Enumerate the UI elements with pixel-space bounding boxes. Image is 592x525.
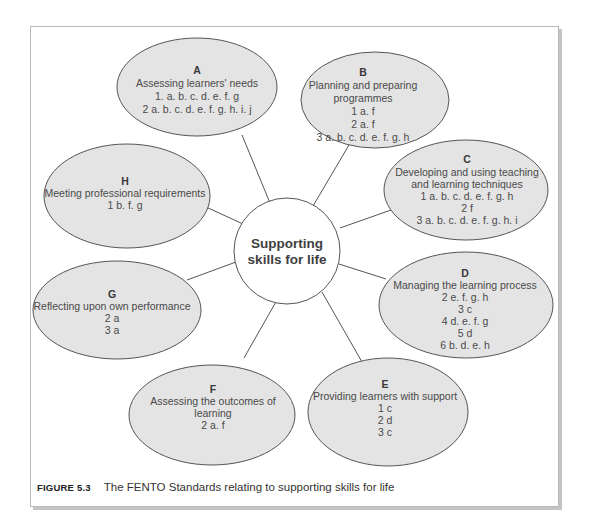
node-line: 3 a. b. c. d. e. f. g. h. i <box>417 214 518 226</box>
connector-d <box>339 264 386 279</box>
node-line: 1 c <box>378 402 392 414</box>
node-line: 2 a. f <box>201 419 224 431</box>
node-letter: B <box>359 66 367 78</box>
center-title-line-1: Supporting <box>251 236 323 251</box>
node-line: 5 d <box>458 327 473 339</box>
node-letter: C <box>463 153 471 165</box>
node-title: Meeting professional requirements <box>44 187 205 199</box>
connector-g <box>187 262 236 280</box>
connector-a <box>242 135 270 203</box>
node-line: 3 a <box>105 324 120 336</box>
node-c: C Developing and using teaching and lear… <box>384 140 548 240</box>
node-title: Managing the learning process <box>393 279 537 291</box>
figure-caption-text: The FENTO Standards relating to supporti… <box>104 481 395 493</box>
node-b: B Planning and preparing programmes 1 a.… <box>301 52 449 148</box>
node-letter: D <box>461 267 469 279</box>
node-d: D Managing the learning process 2 e. f. … <box>379 252 553 358</box>
node-line: 3 c <box>458 303 472 315</box>
node-letter: H <box>121 175 129 187</box>
node-g: G Reflecting upon own performance 2 a 3 … <box>33 261 201 359</box>
center-node: Supporting skills for life <box>234 198 340 304</box>
node-letter: E <box>381 378 388 390</box>
mind-map-diagram: A Assessing learners' needs 1. a. b. c. … <box>0 0 592 525</box>
node-letter: A <box>193 64 201 76</box>
connector-h <box>206 207 243 224</box>
node-a: A Assessing learners' needs 1. a. b. c. … <box>117 38 277 136</box>
node-line: 1. a. b. c. d. e. f. g <box>155 90 239 102</box>
node-line: and learning techniques <box>411 178 523 190</box>
node-title: Providing learners with support <box>313 390 457 402</box>
node-line: learning <box>194 407 232 419</box>
node-line: 1 a. b. c. d. e. f. g. h <box>421 190 514 202</box>
connector-e <box>322 292 362 362</box>
node-line: 3 c <box>378 426 392 438</box>
node-f: F Assessing the outcomes of learning 2 a… <box>129 365 295 465</box>
node-line: 3 a. b. c. d. e. f. g. h <box>317 131 410 143</box>
connector-c <box>340 210 391 228</box>
node-line: 2 f <box>461 202 473 214</box>
node-title: Assessing learners' needs <box>136 77 258 89</box>
node-line: 1 a. f <box>351 105 374 117</box>
node-line: 4 d. e. f. g <box>442 315 489 327</box>
node-line: 6 b. d. e. h <box>440 339 490 351</box>
node-line: 2 a. b. c. d. e. f. g. h. i. j <box>142 103 251 115</box>
node-line: 1 b. f. g <box>107 199 142 211</box>
node-e: E Providing learners with support 1 c 2 … <box>308 358 468 466</box>
figure-caption: FIGURE 5.3 The FENTO Standards relating … <box>37 481 394 493</box>
node-line: 2 d <box>378 414 393 426</box>
node-h: H Meeting professional requirements 1 b.… <box>44 144 210 248</box>
center-title-line-2: skills for life <box>248 252 327 267</box>
connector-f <box>244 300 277 358</box>
node-line: 2 a. f <box>351 118 374 130</box>
node-title: Reflecting upon own performance <box>33 300 190 312</box>
node-line: 2 e. f. g. h <box>442 291 489 303</box>
connector-b <box>313 145 349 206</box>
node-line: programmes <box>334 92 393 104</box>
node-letter: F <box>210 383 217 395</box>
figure-label: FIGURE 5.3 <box>37 482 91 493</box>
node-title: Planning and preparing <box>309 79 418 91</box>
node-title: Developing and using teaching <box>395 166 539 178</box>
node-line: 2 a <box>105 312 120 324</box>
node-letter: G <box>108 288 116 300</box>
node-title: Assessing the outcomes of <box>150 395 276 407</box>
